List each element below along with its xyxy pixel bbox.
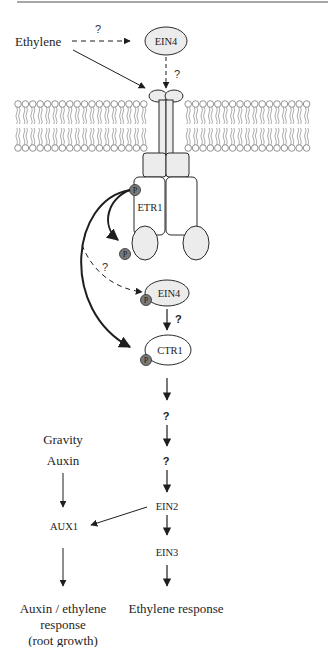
- phospho-label: P: [144, 296, 149, 305]
- ein4-top-label: EIN4: [155, 36, 178, 47]
- etr1-label: ETR1: [137, 202, 162, 213]
- question-step-2: ?: [163, 455, 170, 467]
- ctr1-label: CTR1: [157, 345, 183, 356]
- ethylene-to-receptor-arrow: [73, 50, 145, 88]
- phospho-label: P: [123, 250, 128, 259]
- ethylene-response-label: Ethylene response: [129, 601, 224, 616]
- etr1-receiver-left: [132, 226, 158, 260]
- question-ethylene-ein4: ?: [95, 23, 101, 35]
- ein2-to-aux1-arrow: [91, 507, 147, 525]
- auxin-ethylene-response-line2: response: [40, 617, 86, 632]
- auxin-ethylene-response-line3: (root growth): [28, 633, 98, 647]
- phospho-label: P: [144, 356, 149, 365]
- receptor-domain-right-upper: [166, 153, 189, 177]
- auxin-label: Auxin: [47, 453, 80, 468]
- ethylene-signaling-diagram: Ethylene ? EIN4 ? ETR1 P P ? EIN4: [0, 0, 328, 647]
- question-ein4-ctr1: ?: [175, 313, 182, 325]
- auxin-ethylene-response-line1: Auxin / ethylene: [20, 601, 107, 616]
- phospho-label: P: [133, 186, 138, 195]
- gravity-label: Gravity: [43, 432, 83, 447]
- ethylene-label: Ethylene: [15, 34, 61, 49]
- question-etr1-ein4: ?: [102, 261, 108, 273]
- etr1-receiver-right: [183, 226, 209, 260]
- aux1-label: AUX1: [50, 521, 78, 532]
- ein2-label: EIN2: [156, 501, 179, 512]
- question-ein4-receptor: ?: [174, 68, 180, 80]
- receptor-domain-left-upper: [143, 153, 166, 177]
- phosphotransfer-to-ein4-dashed-arrow: [82, 245, 142, 292]
- receptor-tm-left: [159, 100, 166, 158]
- ein4-lower-label: EIN4: [158, 288, 181, 299]
- question-step-1: ?: [163, 410, 170, 422]
- ein3-label: EIN3: [156, 547, 179, 558]
- receptor-tm-right: [166, 100, 173, 158]
- etr1-receptor-dimer: ETR1 P P: [120, 90, 210, 260]
